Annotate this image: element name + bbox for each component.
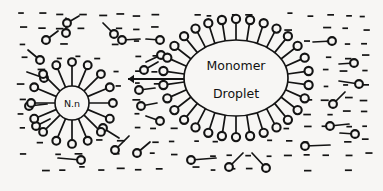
droplet-label-line2: Droplet — [213, 86, 259, 101]
micelle-surfactant-head — [39, 128, 47, 136]
droplet-surfactant-head — [232, 133, 240, 141]
micelle-surfactant-head — [27, 99, 35, 107]
water-dash — [18, 113, 24, 115]
water-dash — [57, 58, 62, 60]
water-dash — [345, 169, 352, 171]
micelle-surfactant-head — [97, 128, 105, 136]
surfactant-head — [111, 146, 119, 154]
water-dash — [360, 100, 368, 102]
water-dash — [324, 86, 329, 88]
micelle-surfactant-head — [52, 137, 60, 145]
water-dash — [152, 14, 160, 16]
micelle-surfactant-head — [106, 115, 114, 123]
droplet-surfactant-head — [294, 42, 302, 50]
water-dash — [345, 97, 353, 99]
water-dash — [245, 155, 251, 157]
water-dash — [116, 28, 122, 30]
water-dash — [75, 153, 83, 155]
water-dash — [340, 70, 348, 72]
water-dash — [20, 99, 26, 101]
droplet-surfactant-head — [284, 116, 292, 124]
droplet-surfactant-head — [272, 25, 280, 33]
surfactant-head — [110, 30, 118, 38]
micelle-n-n: N.n — [27, 58, 117, 148]
droplet-surfactant-head — [218, 132, 226, 140]
surfactant-head — [135, 86, 143, 94]
water-dash — [134, 40, 139, 42]
water-dash — [135, 82, 140, 84]
water-dash — [343, 110, 351, 112]
surfactant-head — [63, 19, 71, 27]
water-dash — [150, 152, 155, 154]
water-dash — [207, 15, 212, 17]
water-dash — [213, 141, 218, 143]
water-dash — [323, 69, 329, 71]
droplet-surfactant-head — [305, 67, 313, 75]
water-dash — [94, 58, 100, 60]
surfactant-head — [328, 37, 336, 45]
droplet-surfactant-head — [163, 94, 171, 102]
droplet-surfactant-head — [180, 32, 188, 40]
micelle-label: N.n — [64, 98, 80, 109]
water-dash — [18, 12, 24, 14]
water-dash — [116, 13, 124, 15]
surfactant-head — [225, 163, 233, 171]
water-dash — [361, 111, 367, 113]
water-dash — [284, 128, 290, 130]
droplet-surfactant-head — [294, 106, 302, 114]
droplet-surfactant-head — [191, 25, 199, 33]
water-dash — [327, 114, 332, 116]
droplet-surfactant-head — [191, 123, 199, 131]
water-dash — [194, 140, 199, 142]
micelle-surfactant-head — [52, 61, 60, 69]
water-dash — [96, 139, 102, 141]
water-dash — [267, 140, 272, 142]
water-dash — [79, 166, 85, 168]
water-dash — [135, 169, 142, 171]
surfactant-head — [156, 36, 164, 44]
water-dash — [344, 141, 351, 143]
surfactant-head — [355, 80, 363, 88]
droplet-surfactant-head — [246, 16, 254, 24]
micelle-surfactant-head — [30, 115, 38, 123]
micelle-surfactant-head — [109, 99, 117, 107]
water-dash — [286, 140, 292, 142]
surfactant-head — [36, 56, 44, 64]
water-dash — [304, 126, 312, 128]
surfactant-head — [156, 117, 164, 125]
surfactant-head — [62, 29, 70, 37]
surfactant-head — [42, 36, 50, 44]
water-dash — [304, 40, 310, 42]
water-dash — [246, 168, 253, 170]
micelle-surfactant-head — [30, 83, 38, 91]
surfactant-head — [118, 36, 126, 44]
water-dash — [56, 28, 64, 30]
droplet-surfactant-head — [218, 16, 226, 24]
water-dash — [362, 138, 369, 140]
water-dash — [135, 127, 141, 129]
water-dash — [193, 166, 200, 168]
surfactant-head — [137, 102, 145, 110]
water-dash — [326, 56, 331, 58]
water-dash — [39, 12, 46, 14]
droplet-surfactant-head — [204, 129, 212, 137]
droplet-surfactant-head — [163, 54, 171, 62]
diagram-canvas: N.n Monomer Droplet — [0, 0, 383, 191]
water-dash — [112, 44, 119, 46]
surfactant-head — [329, 100, 337, 108]
water-dash — [323, 154, 330, 156]
droplet-surfactant-head — [204, 19, 212, 27]
water-dash — [346, 155, 353, 157]
droplet-core-ellipse — [184, 40, 288, 116]
water-dash — [303, 114, 311, 116]
water-dash — [169, 141, 174, 143]
water-dash — [327, 14, 334, 16]
water-dash — [362, 70, 367, 72]
droplet-surfactant-head — [159, 67, 167, 75]
water-dash — [37, 142, 43, 144]
water-dash — [55, 154, 61, 156]
droplet-surfactant-head — [301, 54, 309, 62]
water-dash — [321, 99, 329, 101]
water-dash — [210, 155, 216, 157]
water-dash — [98, 169, 104, 171]
